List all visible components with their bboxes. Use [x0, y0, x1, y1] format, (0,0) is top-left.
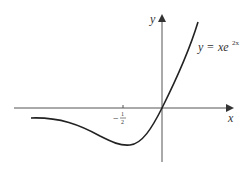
graph: y x − 1 2 y = xe 2x	[0, 0, 245, 171]
svg-text:=: =	[207, 40, 214, 54]
x-axis-label: x	[227, 111, 234, 125]
tick-label-numerator: 1	[121, 111, 124, 117]
svg-text:y: y	[197, 40, 204, 54]
function-label: y = xe 2x	[197, 39, 240, 54]
tick-label-sign: −	[113, 113, 119, 124]
tick-label-denominator: 2	[121, 119, 124, 125]
svg-text:2x: 2x	[232, 39, 240, 47]
curve	[31, 22, 198, 145]
y-axis-label: y	[149, 12, 156, 26]
svg-text:xe: xe	[217, 40, 229, 54]
